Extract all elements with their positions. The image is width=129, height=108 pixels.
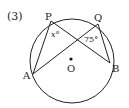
label-O: O — [67, 63, 75, 74]
geometry-diagram: (3) P Q A B O x° 75° — [0, 0, 129, 108]
label-B: B — [112, 63, 119, 74]
label-P: P — [45, 11, 52, 22]
segment-PB — [51, 21, 110, 63]
angle-x-label: x° — [51, 30, 60, 39]
problem-number: (3) — [7, 10, 23, 23]
segment-QB — [98, 24, 110, 63]
segment-PA — [33, 21, 51, 74]
label-A: A — [22, 70, 31, 81]
circle — [30, 19, 114, 103]
label-Q: Q — [94, 12, 102, 23]
angle-75-label: 75° — [84, 35, 98, 44]
center-dot — [69, 57, 72, 60]
